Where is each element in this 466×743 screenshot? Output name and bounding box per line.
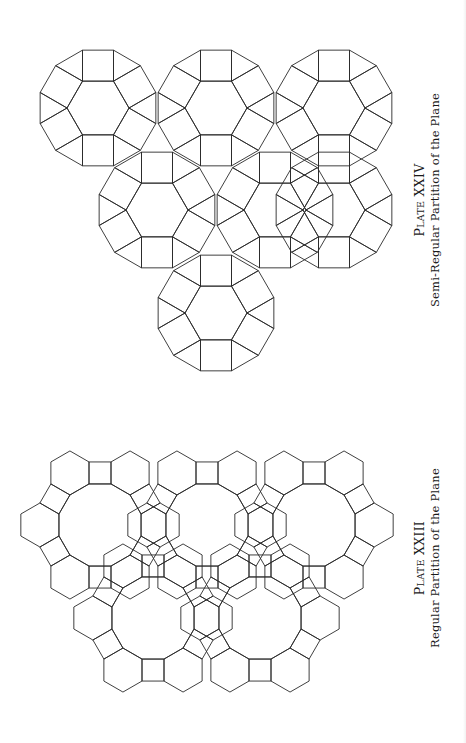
square-tile (291, 168, 333, 210)
hexagon-tile (355, 503, 393, 547)
hexagon-tile (111, 451, 149, 495)
triangle-tile (114, 135, 141, 166)
dodecagon-tile (273, 484, 355, 566)
square-tile (201, 340, 232, 371)
triangle-tile (306, 195, 333, 226)
hexagon-tile (211, 648, 249, 692)
hexagon-tile (303, 183, 365, 237)
hexagon-tile (141, 503, 179, 547)
hexagon-tile (303, 81, 365, 135)
hexagon-tile (128, 503, 166, 547)
triangle-tile (40, 93, 67, 124)
square-tile (290, 629, 320, 659)
triangle-tile (217, 195, 244, 226)
triangle-tile (292, 237, 319, 268)
triangle-tile (232, 340, 259, 371)
triangle-tile (276, 195, 303, 226)
hexagon-tile (51, 555, 89, 599)
square-tile (201, 255, 232, 286)
triangle-tile (158, 93, 185, 124)
plate-xxiv-title: PLATE XXIV (412, 80, 427, 320)
hexagon-tile (271, 648, 309, 692)
plate-xxiii-title: PLATE XXIII (412, 458, 427, 658)
triangle-tile (365, 195, 392, 226)
triangle-tile (292, 135, 319, 166)
hexagon-tile (74, 596, 112, 640)
square-tile (83, 135, 114, 166)
triangle-tile (174, 135, 201, 166)
tiling-4-6-12-figure (0, 400, 466, 743)
triangle-tile (158, 298, 185, 329)
dodecagon-tile (112, 577, 194, 659)
hexagon-tile (21, 503, 59, 547)
triangle-tile (247, 298, 274, 329)
triangle-tile (291, 237, 318, 268)
square-tile (173, 168, 215, 210)
dodecagon-tile (166, 484, 248, 566)
square-tile (99, 168, 141, 210)
triangle-tile (174, 340, 201, 371)
triangle-tile (350, 50, 377, 81)
square-tile (291, 210, 333, 252)
hexagon-tile (104, 648, 142, 692)
hexagon-tile (126, 183, 188, 237)
plate-xxiv-caption: PLATE XXIV Semi-Regular Partition of the… (412, 80, 442, 320)
square-tile (201, 50, 232, 81)
square-tile (158, 313, 200, 355)
square-tile (201, 135, 232, 166)
dodecagon-tile (219, 577, 301, 659)
plate-xxiv: PLATE XXIV Semi-Regular Partition of the… (0, 0, 466, 420)
hexagon-tile (248, 503, 286, 547)
triangle-tile (129, 93, 156, 124)
hexagon-tile (301, 596, 339, 640)
square-tile (232, 66, 274, 108)
hexagon-tile (185, 81, 247, 135)
square-tile (319, 135, 350, 166)
plate-xxiii-caption: PLATE XXIII Regular Partition of the Pla… (412, 458, 442, 658)
hexagon-tile (265, 451, 303, 495)
square-tile (232, 108, 274, 150)
triangle-tile (188, 195, 215, 226)
square-tile (217, 168, 259, 210)
triangle-tile (247, 93, 274, 124)
square-tile (142, 659, 164, 681)
triangle-tile (56, 135, 83, 166)
square-tile (217, 210, 259, 252)
square-tile (290, 577, 320, 607)
hexagon-tile (181, 596, 219, 640)
plate-xxiii: PLATE XXIII Regular Partition of the Pla… (0, 400, 466, 743)
square-tile (40, 536, 70, 566)
hexagon-tile (194, 596, 232, 640)
square-tile (276, 66, 318, 108)
triangle-tile (292, 50, 319, 81)
square-tile (350, 168, 392, 210)
tiling-3-4-6-4-figure (0, 0, 466, 420)
square-tile (158, 108, 200, 150)
hexagon-tile (164, 648, 202, 692)
square-tile (158, 66, 200, 108)
square-tile (319, 50, 350, 81)
plate-xxiv-subtitle: Semi-Regular Partition of the Plane (428, 80, 442, 320)
hexagon-tile (51, 451, 89, 495)
triangle-tile (233, 152, 260, 183)
square-tile (303, 462, 325, 484)
square-tile (99, 210, 141, 252)
square-tile (89, 462, 111, 484)
triangle-tile (365, 93, 392, 124)
square-tile (232, 313, 274, 355)
hexagon-tile (158, 451, 196, 495)
square-tile (249, 659, 271, 681)
square-tile (83, 50, 114, 81)
dodecagon-tile (59, 484, 141, 566)
square-tile (114, 108, 156, 150)
square-tile (350, 66, 392, 108)
square-tile (89, 566, 111, 588)
hexagon-tile (235, 503, 273, 547)
square-tile (40, 66, 82, 108)
hexagon-tile (325, 555, 363, 599)
square-tile (350, 108, 392, 150)
hexagon-tile (244, 183, 306, 237)
square-tile (344, 484, 374, 514)
triangle-tile (350, 237, 377, 268)
square-tile (142, 237, 173, 268)
